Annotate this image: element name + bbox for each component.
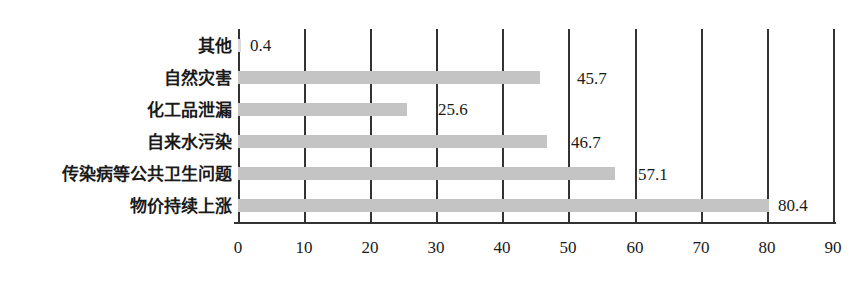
value-label-natural-disaster: 45.7 [577,69,607,89]
x-tick-90: 90 [825,238,842,258]
gridline-20 [370,29,372,222]
x-axis-line [234,222,836,224]
x-tick-30: 30 [428,238,445,258]
category-label-natural-disaster: 自然灾害 [164,68,232,88]
bar-chemical-leak [238,103,407,116]
bar-price-rise [238,199,769,212]
x-tick-80: 80 [759,238,776,258]
bar-water-pollution [238,135,547,148]
category-label-price-rise: 物价持续上涨 [130,196,232,216]
category-label-other: 其他 [198,36,232,56]
x-tick-60: 60 [627,238,644,258]
bar-natural-disaster [238,71,540,84]
category-label-water-pollution: 自来水污染 [147,132,232,152]
bar-other [238,39,241,52]
category-label-public-health: 传染病等公共卫生问题 [62,164,232,184]
gridline-10 [304,29,306,222]
x-tick-10: 10 [296,238,313,258]
category-label-chemical-leak: 化工品泄漏 [147,100,232,120]
gridline-0 [238,29,240,222]
gridline-90 [833,29,835,222]
chart-plot-area: 0.4 45.7 25.6 46.7 57.1 80.4 [238,29,833,222]
x-tick-70: 70 [693,238,710,258]
gridline-60 [635,29,637,222]
bar-public-health [238,167,615,180]
x-tick-0: 0 [234,238,243,258]
value-label-other: 0.4 [250,36,271,56]
gridline-50 [568,29,570,222]
gridline-40 [502,29,504,222]
value-label-chemical-leak: 25.6 [438,100,468,120]
value-label-public-health: 57.1 [638,165,668,185]
gridline-70 [701,29,703,222]
x-tick-20: 20 [362,238,379,258]
gridline-30 [436,29,438,222]
x-tick-40: 40 [494,238,511,258]
value-label-price-rise: 80.4 [778,196,808,216]
gridline-80 [767,29,769,222]
x-tick-50: 50 [560,238,577,258]
value-label-water-pollution: 46.7 [571,133,601,153]
